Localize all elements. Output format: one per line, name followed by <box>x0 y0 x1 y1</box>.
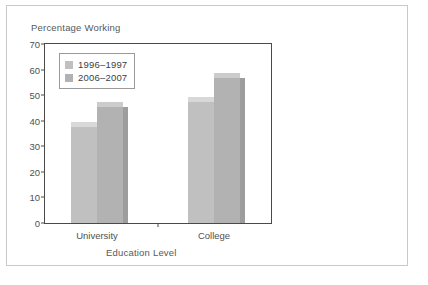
legend-label: 1996–1997 <box>78 59 127 70</box>
plot-area: 0 10 20 30 40 50 60 70 <box>44 43 272 224</box>
bar-chart-figure: Percentage Working 0 10 20 30 40 50 60 <box>0 0 428 285</box>
bar-college-2006-2007 <box>214 78 240 223</box>
x-tick-label-university: University <box>76 230 118 241</box>
chart-legend: 1996–1997 2006–2007 <box>59 53 135 89</box>
y-tick-label: 40 <box>29 115 40 126</box>
bar-front-face <box>97 107 123 223</box>
legend-swatch-icon <box>65 61 73 69</box>
bar-front-face <box>214 78 240 223</box>
x-tick-label-college: College <box>198 230 230 241</box>
bar-side-face <box>240 78 245 223</box>
y-tick-label: 20 <box>29 166 40 177</box>
legend-label: 2006–2007 <box>78 72 127 83</box>
y-axis-title: Percentage Working <box>31 22 121 33</box>
bar-university-2006-2007 <box>97 107 123 223</box>
page-canvas: Percentage Working 0 10 20 30 40 50 60 <box>0 0 428 285</box>
y-tick-label: 50 <box>29 90 40 101</box>
y-tick-label: 30 <box>29 141 40 152</box>
bar-front-face <box>188 102 214 224</box>
y-tick-label: 0 <box>35 218 40 229</box>
legend-item: 1996–1997 <box>65 58 127 71</box>
y-tick-label: 10 <box>29 192 40 203</box>
bar-front-face <box>71 127 97 223</box>
bar-side-face <box>123 107 128 223</box>
legend-item: 2006–2007 <box>65 71 127 84</box>
bar-college-1996-1997 <box>188 102 214 224</box>
legend-swatch-icon <box>65 74 73 82</box>
y-tick-label: 60 <box>29 64 40 75</box>
y-tick-label: 70 <box>29 39 40 50</box>
bar-university-1996-1997 <box>71 127 97 223</box>
x-axis-title: Education Level <box>106 247 177 258</box>
